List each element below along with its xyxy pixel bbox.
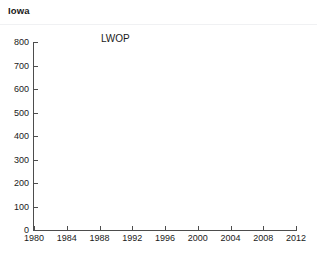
y-axis-tick-label-text: 500 xyxy=(3,109,29,118)
y-axis-tick-label: 500 xyxy=(0,109,29,118)
x-axis-tick-label-text: 2012 xyxy=(276,233,316,244)
chart-figure: 800 700 600 500 400 300 200 100 0 1980 1… xyxy=(0,25,317,253)
y-axis-tick-label-text: 700 xyxy=(3,62,29,71)
y-axis-tick-label-text: 100 xyxy=(3,203,29,212)
y-axis-tick-label: 700 xyxy=(0,62,29,71)
y-axis-tick-label-text: 600 xyxy=(3,85,29,94)
y-axis-tick-label: 600 xyxy=(0,85,29,94)
y-axis-tick-label-text: 400 xyxy=(3,132,29,141)
series-annotation-lwop: LWOP xyxy=(101,33,130,45)
y-axis-tick-label-text: 800 xyxy=(3,38,29,47)
y-axis-tick-label: 300 xyxy=(0,156,29,165)
y-axis-tick-label-text: 300 xyxy=(3,156,29,165)
y-axis-tick-label: 400 xyxy=(0,132,29,141)
y-axis-tick-label: 800 xyxy=(0,38,29,47)
y-axis-tick-label-text: 200 xyxy=(3,179,29,188)
page-title: Iowa xyxy=(8,4,30,17)
plot-area xyxy=(34,42,296,230)
x-axis-tick xyxy=(296,226,297,230)
x-axis-line xyxy=(33,230,297,231)
x-axis-tick-label: 2012 xyxy=(276,233,316,244)
y-axis-tick-label: 100 xyxy=(0,203,29,212)
y-axis-tick-label: 200 xyxy=(0,179,29,188)
